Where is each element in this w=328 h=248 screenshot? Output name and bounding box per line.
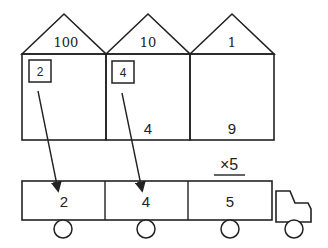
truck-cab-icon: [276, 191, 311, 222]
truck-value-ones: 5: [226, 193, 234, 210]
arrow-tens: [122, 93, 142, 190]
carry-value-hundreds: 2: [37, 65, 44, 79]
truck-value-hundreds: 2: [60, 193, 68, 210]
multiplier-label: ×5: [220, 156, 238, 173]
house-hundreds: [22, 14, 106, 140]
digit-ones: 9: [228, 120, 236, 137]
wheel-icon: [221, 220, 239, 238]
place-value-diagram: 100 10 1 2 4 4 9 ×5 2 4 5: [0, 0, 328, 248]
place-label-hundreds: 100: [54, 35, 79, 50]
wheel-icon: [285, 220, 303, 238]
place-label-tens: 10: [140, 35, 157, 50]
wheel-icon: [137, 220, 155, 238]
wheel-icon: [54, 220, 72, 238]
carry-value-tens: 4: [120, 66, 127, 80]
digit-tens: 4: [144, 120, 152, 137]
place-label-ones: 1: [228, 35, 236, 50]
truck-value-tens: 4: [142, 193, 150, 210]
